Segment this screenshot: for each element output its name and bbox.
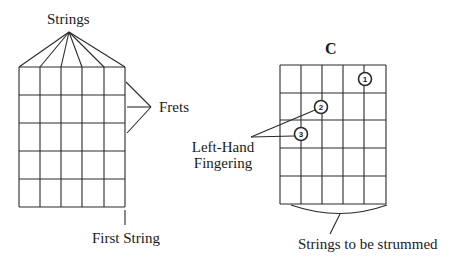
strings-to-be-strummed-label: Strings to be strummed [298, 237, 438, 252]
frets-label: Frets [159, 100, 189, 115]
guitar-chord-diagram-figure: 123 Strings Frets First String C Left-Ha… [0, 0, 467, 267]
strings-pointer-line-6 [69, 32, 125, 67]
finger-marker-1: 1 [359, 73, 372, 86]
finger-marker-2: 2 [315, 101, 328, 114]
svg-text:1: 1 [363, 75, 368, 84]
svg-text:2: 2 [319, 103, 324, 112]
strings-pointer-line-5 [69, 32, 104, 67]
strum-bracket [291, 205, 387, 234]
strings-pointer-lines [19, 32, 125, 67]
strings-pointer-line-4 [69, 32, 82, 67]
strings-label: Strings [47, 12, 90, 27]
finger-position-markers: 123 [295, 73, 372, 141]
finger-marker-3: 3 [295, 128, 308, 141]
left-fretboard-grid [19, 67, 125, 207]
diagram-artwork: 123 [0, 0, 467, 267]
chord-name-title: C [325, 41, 337, 57]
frets-bracket [126, 82, 151, 133]
left-hand-label-line1: Left-Hand [190, 140, 256, 155]
svg-text:3: 3 [299, 130, 304, 139]
first-string-label: First String [92, 231, 160, 246]
left-hand-label-line2: Fingering [190, 156, 256, 171]
